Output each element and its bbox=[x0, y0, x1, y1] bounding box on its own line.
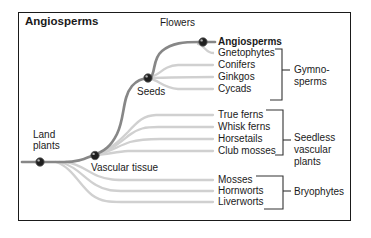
tip-cycads: Cycads bbox=[218, 83, 251, 95]
phylogenetic-tree-svg bbox=[0, 0, 371, 238]
label-land-plants: Land plants bbox=[33, 129, 79, 151]
branch-ginkgos bbox=[148, 77, 213, 78]
tip-liverworts: Liverworts bbox=[218, 196, 264, 208]
tip-true-ferns: True ferns bbox=[218, 109, 263, 121]
label-seeds: Seeds bbox=[137, 86, 165, 98]
tip-whisk-ferns: Whisk ferns bbox=[218, 121, 270, 133]
tip-ginkgos: Ginkgos bbox=[218, 71, 255, 83]
group-gymnosperms-line2: sperms bbox=[294, 76, 330, 88]
group-seedless-line3: plants bbox=[294, 156, 335, 168]
group-seedless-line1: Seedless bbox=[294, 132, 335, 144]
tip-club-mosses: Club mosses bbox=[218, 145, 276, 157]
node-vascular-tissue bbox=[91, 151, 99, 159]
branch-club-mosses bbox=[96, 151, 213, 155]
group-gymnosperms-line1: Gymno- bbox=[294, 64, 330, 76]
label-flowers: Flowers bbox=[160, 17, 195, 29]
figure-page: Angiosperms Flowers Seeds Land plants Va… bbox=[0, 0, 371, 238]
node-land-plants bbox=[36, 158, 44, 166]
node-seeds bbox=[144, 74, 152, 82]
tip-gnetophytes: Gnetophytes bbox=[218, 47, 275, 59]
group-bryophytes-line1: Bryophytes bbox=[294, 186, 344, 198]
group-seedless-line2: vascular bbox=[294, 144, 335, 156]
group-label-bryophytes: Bryophytes bbox=[294, 186, 344, 198]
label-vascular-tissue: Vascular tissue bbox=[91, 162, 158, 174]
tip-conifers: Conifers bbox=[218, 59, 255, 71]
figure-title: Angiosperms bbox=[25, 15, 99, 27]
tip-horsetails: Horsetails bbox=[218, 133, 262, 145]
group-label-seedless-vascular-plants: Seedless vascular plants bbox=[294, 132, 335, 168]
node-flowers bbox=[199, 38, 207, 46]
group-label-gymnosperms: Gymno- sperms bbox=[294, 64, 330, 88]
